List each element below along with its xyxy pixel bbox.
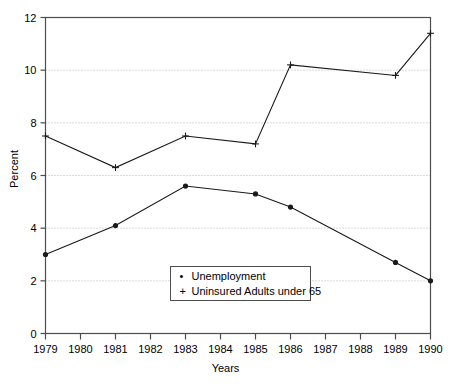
- y-tick-label-6: 6: [30, 170, 36, 182]
- chart-container: 024681012 197919801981198219831984198519…: [0, 0, 451, 385]
- y-axis-ticks: 024681012: [24, 12, 45, 340]
- data-point-marker: [183, 183, 188, 188]
- x-tick-label-1985: 1985: [243, 343, 267, 355]
- data-point-marker: [253, 191, 258, 196]
- gridlines: [46, 70, 431, 281]
- x-tick-label-1979: 1979: [33, 343, 57, 355]
- x-tick-label-1983: 1983: [173, 343, 197, 355]
- series-line-1: [46, 33, 431, 167]
- data-point-marker: [42, 133, 49, 140]
- y-tick-label-8: 8: [30, 117, 36, 129]
- line-chart: 024681012 197919801981198219831984198519…: [0, 0, 451, 385]
- legend-marker-0: •: [180, 270, 184, 282]
- chart-legend: •Unemployment+Uninsured Adults under 65: [171, 267, 322, 301]
- x-tick-label-1990: 1990: [418, 343, 442, 355]
- data-point-marker: [252, 141, 259, 148]
- y-axis-title: Percent: [8, 139, 20, 199]
- data-point-marker: [428, 278, 433, 283]
- x-axis-ticks: 1979198019811982198319841985198619871988…: [33, 334, 442, 355]
- y-tick-label-2: 2: [30, 275, 36, 287]
- data-point-marker: [287, 62, 294, 69]
- data-point-marker: [288, 205, 293, 210]
- x-tick-label-1988: 1988: [348, 343, 372, 355]
- y-tick-label-10: 10: [24, 64, 36, 76]
- y-tick-label-12: 12: [24, 12, 36, 24]
- x-tick-label-1989: 1989: [383, 343, 407, 355]
- x-tick-label-1984: 1984: [208, 343, 232, 355]
- legend-marker-1: +: [180, 285, 186, 297]
- data-point-marker: [393, 260, 398, 265]
- data-point-marker: [43, 252, 48, 257]
- x-tick-label-1982: 1982: [138, 343, 162, 355]
- x-tick-label-1981: 1981: [103, 343, 127, 355]
- legend-label-0: Unemployment: [192, 270, 266, 282]
- y-tick-label-0: 0: [30, 328, 36, 340]
- legend-label-1: Uninsured Adults under 65: [192, 285, 322, 297]
- data-series-layer: [42, 30, 434, 284]
- data-point-marker: [113, 223, 118, 228]
- data-point-marker: [182, 133, 189, 140]
- x-tick-label-1980: 1980: [68, 343, 92, 355]
- x-tick-label-1987: 1987: [313, 343, 337, 355]
- x-tick-label-1986: 1986: [278, 343, 302, 355]
- y-tick-label-4: 4: [30, 222, 36, 234]
- data-point-marker: [112, 164, 119, 171]
- x-axis-title: Years: [0, 362, 451, 374]
